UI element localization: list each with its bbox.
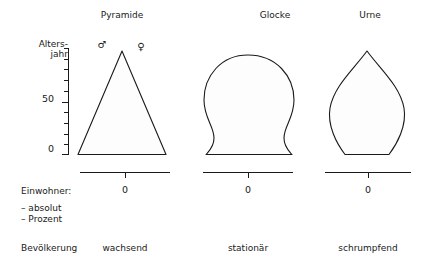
shape-pyramide bbox=[78, 51, 166, 155]
row-label-einwohner: Einwohner: bbox=[21, 186, 71, 196]
x-axis-urne bbox=[325, 173, 411, 179]
y-axis bbox=[62, 48, 69, 155]
row-sublabel-absolut: – absolut bbox=[21, 203, 62, 213]
trend-value-urne: schrumpfend bbox=[308, 243, 422, 253]
x-axis-glocke bbox=[203, 173, 293, 179]
x-axis-zero-glocke: 0 bbox=[233, 185, 263, 196]
shape-glocke bbox=[204, 55, 294, 155]
x-axis-zero-pyramide: 0 bbox=[110, 185, 140, 196]
shape-urne bbox=[329, 51, 404, 155]
population-pyramid-figure: Pyramide Glocke Urne Alters- jahr 50 0 ♂… bbox=[0, 0, 422, 271]
x-axis-pyramide bbox=[80, 173, 170, 179]
trend-value-pyramide: wachsend bbox=[65, 243, 185, 253]
row-sublabel-prozent: – Prozent bbox=[21, 214, 62, 224]
trend-value-glocke: stationär bbox=[188, 243, 308, 253]
x-axis-zero-urne: 0 bbox=[353, 185, 383, 196]
figure-drawing-layer bbox=[0, 0, 422, 271]
